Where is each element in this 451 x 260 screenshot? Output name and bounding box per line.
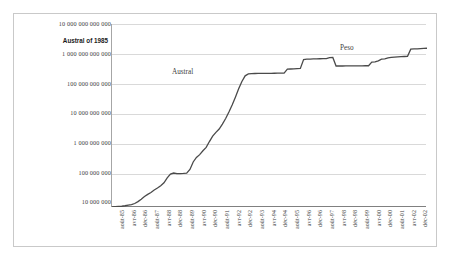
x-tick-label: avr-86 — [131, 210, 137, 226]
x-tick-label: avr-90 — [201, 210, 207, 226]
x-tick-label: avr-98 — [341, 210, 347, 226]
x-tick-label: déc-96 — [317, 210, 323, 227]
y-tick-label: 100 000 000 — [17, 169, 111, 177]
y-tick-label: 1 000 000 000 — [17, 139, 111, 147]
x-tick-label: avr-88 — [166, 210, 172, 226]
x-tick-label: déc-88 — [177, 210, 183, 227]
y-tick-label: 100 000 000 000 — [17, 80, 111, 88]
x-tick-label: août-97 — [329, 210, 335, 229]
data-series-line — [112, 24, 427, 207]
x-tick-label: août-01 — [399, 210, 405, 229]
x-tick-label: août-99 — [364, 210, 370, 229]
x-tick-label: déc-86 — [142, 210, 148, 227]
x-tick-label: août-89 — [189, 210, 195, 229]
data-series-polyline — [112, 48, 427, 207]
y-tick-label: 10 000 000 000 000 — [17, 20, 111, 28]
x-axis-labels: août-85avr-86déc-86août-87avr-88déc-88ao… — [111, 207, 426, 259]
x-tick-label: avr-96 — [306, 210, 312, 226]
y-tick-label: 10 000 000 000 — [17, 109, 111, 117]
x-tick-label: déc-94 — [282, 210, 288, 227]
x-tick-label: août-87 — [154, 210, 160, 229]
x-tick-label: déc-00 — [387, 210, 393, 227]
x-tick-label: avr-92 — [236, 210, 242, 226]
x-tick-label: août-95 — [294, 210, 300, 229]
x-tick-label: avr-02 — [411, 210, 417, 226]
x-tick-label: déc-90 — [212, 210, 218, 227]
x-tick-label: avr-94 — [271, 210, 277, 226]
x-tick-label: août-93 — [259, 210, 265, 229]
plot-area: Austral Peso — [111, 24, 426, 207]
x-tick-label: avr-00 — [376, 210, 382, 226]
x-tick-label: août-91 — [224, 210, 230, 229]
x-tick-label: déc-98 — [352, 210, 358, 227]
y-tick-label: 10 000 000 — [17, 198, 111, 206]
x-tick-label: août-85 — [119, 210, 125, 229]
x-tick-label: déc-02 — [422, 210, 428, 227]
y-axis-labels: 10 000 000 000 000 Austral of 1985 1 000… — [14, 14, 111, 214]
chart-figure: 10 000 000 000 000 Austral of 1985 1 000… — [13, 13, 437, 247]
y-axis-title: Austral of 1985 — [14, 37, 108, 44]
y-tick-label: 1 000 000 000 000 — [17, 50, 111, 58]
x-tick-label: déc-92 — [247, 210, 253, 227]
